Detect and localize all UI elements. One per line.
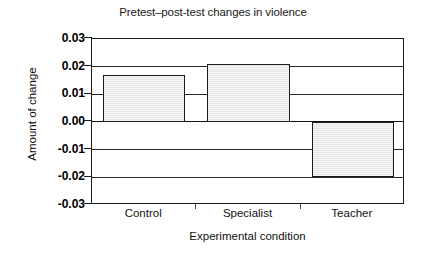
y-tick-label: 0.01 [15, 86, 85, 100]
y-tick-label: -0.01 [15, 142, 85, 156]
x-tick-label: Specialist [195, 207, 299, 219]
y-tick-label: 0.03 [15, 31, 85, 45]
plot-area [91, 38, 404, 204]
bar-control [103, 75, 185, 122]
bar-chart-figure: Pretest–post-test changes in violence Am… [0, 0, 426, 258]
y-tick-label: -0.02 [15, 169, 85, 183]
bar-teacher [312, 122, 394, 177]
y-tick-label: 0.02 [15, 59, 85, 73]
y-tick-label: 0.00 [15, 114, 85, 128]
x-tick-label: Teacher [300, 207, 404, 219]
bar-specialist [207, 64, 289, 122]
y-tick-label: -0.03 [15, 197, 85, 211]
x-tick-label: Control [91, 207, 195, 219]
x-axis-title: Experimental condition [90, 230, 405, 242]
chart-title: Pretest–post-test changes in violence [0, 6, 426, 18]
